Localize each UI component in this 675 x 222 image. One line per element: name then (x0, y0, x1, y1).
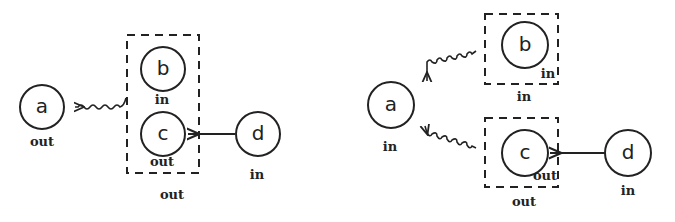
right-node-c: c out (502, 130, 557, 183)
right-node-b-label: in (541, 66, 556, 81)
left-node-d-label: in (250, 167, 265, 182)
left-node-d: d in (236, 112, 280, 182)
right-edge-group-b-to-a-wavy-arrow (427, 51, 476, 81)
left-node-b-letter: b (157, 56, 170, 80)
left-group-bc-label: out (160, 187, 184, 202)
left-node-b: b in (141, 47, 185, 107)
right-node-a-letter: a (385, 92, 397, 116)
right-node-c-label: out (533, 168, 557, 183)
left-node-c: c out (141, 112, 185, 169)
right-node-b-letter: b (519, 32, 532, 56)
right-edge-group-c-to-a-wavy-arrow (425, 126, 476, 148)
left-node-a-letter: a (36, 94, 48, 118)
right-node-d-letter: d (622, 140, 635, 164)
right-node-d: d in (605, 130, 651, 198)
diagram-canvas: a out out b in c out d in (0, 0, 675, 222)
left-edge-group-to-a-wavy-arrow (75, 98, 126, 109)
right-node-c-letter: c (520, 140, 531, 164)
right-diagram: a in in b in out c out d in (368, 14, 651, 209)
left-node-b-label: in (155, 92, 170, 107)
right-node-a-label: in (383, 139, 398, 154)
left-node-d-letter: d (252, 121, 265, 145)
right-node-a: a in (368, 82, 414, 154)
right-group-b-label: in (517, 89, 532, 104)
right-node-d-label: in (621, 183, 636, 198)
left-node-c-letter: c (158, 121, 169, 145)
left-node-a: a out (20, 85, 64, 149)
right-node-b: b in (502, 22, 556, 81)
left-diagram: a out out b in c out d in (20, 35, 280, 202)
left-node-a-label: out (30, 134, 54, 149)
left-node-c-label: out (150, 154, 174, 169)
right-group-c-label: out (512, 194, 536, 209)
